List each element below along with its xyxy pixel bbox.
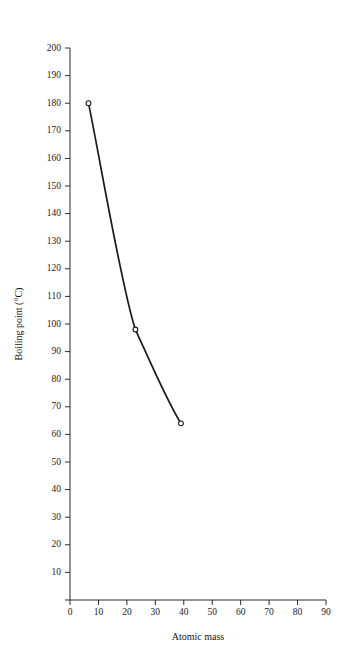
x-tick-label: 70 <box>264 607 274 617</box>
x-tick-label: 20 <box>122 607 132 617</box>
y-tick-label: 190 <box>47 70 62 80</box>
x-tick-label: 10 <box>94 607 104 617</box>
y-tick-label: 90 <box>52 346 62 356</box>
y-tick-label: 180 <box>47 98 62 108</box>
y-tick-label: 80 <box>52 374 62 384</box>
x-tick-label: 90 <box>321 607 331 617</box>
y-tick-label: 120 <box>47 263 62 273</box>
y-tick-label: 50 <box>52 457 62 467</box>
x-tick-label: 50 <box>207 607 217 617</box>
line-chart: 1020304050607080901001101201301401501601… <box>0 0 351 662</box>
x-axis-title: Atomic mass <box>172 631 225 642</box>
x-tick-label: 30 <box>151 607 161 617</box>
y-tick-label: 30 <box>52 512 62 522</box>
y-tick-label: 160 <box>47 153 62 163</box>
data-point-marker <box>179 421 184 426</box>
data-series-line <box>88 103 180 423</box>
x-axis-tick-group: 0102030405060708090 <box>68 600 331 617</box>
y-axis-tick-group: 1020304050607080901001101201301401501601… <box>47 43 70 600</box>
x-tick-label: 0 <box>68 607 73 617</box>
y-axis-title: Boiling point (°C) <box>13 288 25 361</box>
y-tick-label: 70 <box>52 401 62 411</box>
y-tick-label: 140 <box>47 208 62 218</box>
chart-container: 1020304050607080901001101201301401501601… <box>0 0 351 662</box>
y-tick-label: 60 <box>52 429 62 439</box>
x-tick-label: 40 <box>179 607 189 617</box>
y-tick-label: 200 <box>47 43 62 53</box>
y-tick-label: 40 <box>52 484 62 494</box>
y-tick-label: 170 <box>47 125 62 135</box>
y-tick-label: 100 <box>47 319 62 329</box>
y-tick-label: 150 <box>47 181 62 191</box>
data-point-marker <box>86 101 91 106</box>
y-tick-label: 10 <box>52 567 62 577</box>
data-point-marker <box>133 327 138 332</box>
y-tick-label: 110 <box>47 291 61 301</box>
y-tick-label: 130 <box>47 236 62 246</box>
data-point-marker-group <box>86 101 183 426</box>
x-tick-label: 60 <box>236 607 246 617</box>
y-tick-label: 20 <box>52 539 62 549</box>
x-tick-label: 80 <box>293 607 303 617</box>
